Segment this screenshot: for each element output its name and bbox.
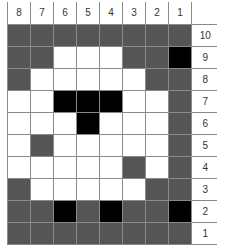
grid-cell-gray [169,68,192,90]
grid-cell-white [77,178,100,200]
grid-cell-white [31,156,54,178]
grid-cell-white [54,68,77,90]
grid-row: 3 [8,178,217,200]
grid-cell-black [54,200,77,222]
row-label: 8 [192,68,217,90]
grid-cell-gray [54,24,77,46]
grid-cell-white [77,134,100,156]
grid-cell-gray [8,24,31,46]
grid-cell-white [100,178,123,200]
grid-cell-gray [146,68,169,90]
grid-cell-white [31,68,54,90]
grid-cell-white [100,112,123,134]
row-label: 7 [192,90,217,112]
grid-cell-gray [100,222,123,244]
grid-cell-gray [8,222,31,244]
pixel-grid: 87654321 10987654321 [7,2,217,245]
grid-cell-gray [77,200,100,222]
grid-cell-white [54,112,77,134]
grid-cell-white [31,112,54,134]
row-label: 1 [192,222,217,244]
row-label: 9 [192,46,217,68]
grid-cell-gray [123,156,146,178]
row-label: 10 [192,24,217,46]
grid-cell-white [100,156,123,178]
grid-cell-white [77,156,100,178]
grid-cell-black [169,46,192,68]
row-label: 3 [192,178,217,200]
grid-cell-white [8,90,31,112]
grid-cell-white [77,68,100,90]
grid-cell-gray [169,178,192,200]
grid-cell-white [123,68,146,90]
grid-cell-black [100,200,123,222]
grid-cell-white [146,134,169,156]
grid-cell-gray [123,222,146,244]
grid-cell-white [146,112,169,134]
grid-cell-gray [169,156,192,178]
grid-cell-gray [169,222,192,244]
grid-cell-gray [31,134,54,156]
grid-cell-white [54,46,77,68]
column-label: 5 [77,2,100,24]
grid-cell-white [100,68,123,90]
grid-cell-white [100,134,123,156]
grid-cell-white [8,156,31,178]
grid-cell-gray [169,90,192,112]
grid-cell-gray [146,46,169,68]
grid-table: 87654321 10987654321 [7,2,217,245]
grid-row: 4 [8,156,217,178]
corner-spacer [192,2,217,24]
grid-body: 10987654321 [8,24,217,244]
column-label: 2 [146,2,169,24]
grid-cell-black [169,200,192,222]
grid-cell-white [54,134,77,156]
grid-cell-gray [77,222,100,244]
column-label: 6 [54,2,77,24]
column-header-row: 87654321 [8,2,217,24]
grid-row: 9 [8,46,217,68]
grid-cell-black [77,112,100,134]
grid-cell-gray [123,46,146,68]
row-label: 6 [192,112,217,134]
grid-cell-black [77,90,100,112]
grid-row: 2 [8,200,217,222]
grid-cell-gray [123,24,146,46]
column-label: 3 [123,2,146,24]
grid-cell-gray [123,200,146,222]
grid-cell-gray [169,134,192,156]
grid-cell-gray [8,68,31,90]
grid-cell-gray [31,46,54,68]
row-label: 4 [192,156,217,178]
grid-cell-gray [54,222,77,244]
grid-cell-black [100,90,123,112]
grid-cell-gray [31,200,54,222]
grid-cell-gray [77,24,100,46]
grid-row: 7 [8,90,217,112]
grid-cell-gray [8,46,31,68]
grid-cell-gray [169,112,192,134]
grid-row: 5 [8,134,217,156]
grid-cell-white [123,90,146,112]
column-label: 4 [100,2,123,24]
grid-cell-gray [100,24,123,46]
grid-cell-gray [8,200,31,222]
grid-cell-white [146,90,169,112]
grid-cell-white [77,46,100,68]
grid-row: 10 [8,24,217,46]
row-label: 5 [192,134,217,156]
grid-cell-white [123,134,146,156]
grid-cell-white [31,90,54,112]
grid-cell-gray [146,178,169,200]
grid-cell-white [146,156,169,178]
grid-row: 8 [8,68,217,90]
grid-cell-white [8,134,31,156]
grid-cell-gray [31,222,54,244]
grid-cell-white [54,156,77,178]
column-label: 1 [169,2,192,24]
grid-cell-gray [31,24,54,46]
grid-cell-white [123,178,146,200]
grid-cell-white [54,178,77,200]
grid-cell-gray [8,178,31,200]
column-label: 7 [31,2,54,24]
